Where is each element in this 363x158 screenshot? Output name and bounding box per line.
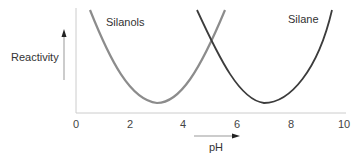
silane-label: Silane — [288, 13, 319, 25]
x-tick-6: 6 — [234, 118, 240, 130]
x-axis-label: pH — [209, 141, 223, 153]
right-arrow-icon — [232, 134, 240, 139]
x-tick-0: 0 — [73, 118, 79, 130]
reactivity-ph-chart: Silanols Silane Reactivity 0 2 4 6 8 10 … — [0, 0, 363, 158]
silanols-label: Silanols — [106, 16, 145, 28]
y-axis-label: Reactivity — [11, 51, 59, 63]
x-tick-2: 2 — [127, 118, 133, 130]
x-tick-8: 8 — [288, 118, 294, 130]
up-arrow-icon — [62, 29, 67, 37]
x-tick-4: 4 — [180, 118, 186, 130]
x-tick-10: 10 — [338, 118, 350, 130]
